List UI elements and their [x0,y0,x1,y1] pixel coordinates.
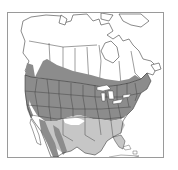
map-frame [7,12,164,158]
baja-california [30,119,41,145]
range-map [8,13,164,158]
caribbean-islands [109,145,139,158]
